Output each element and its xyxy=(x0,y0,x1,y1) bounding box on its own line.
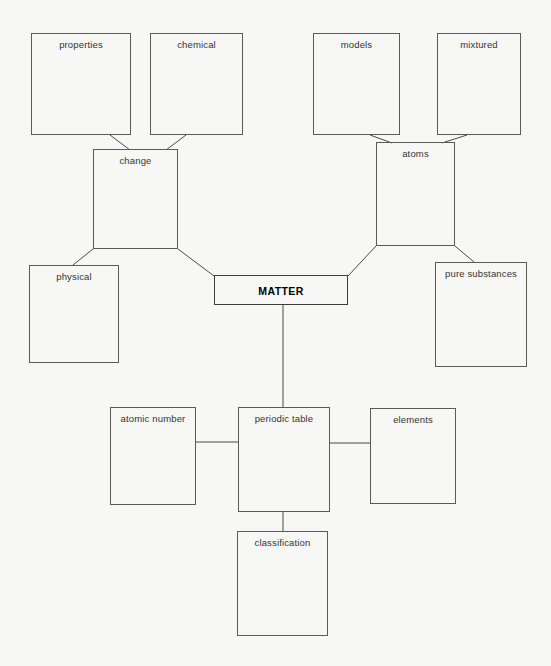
connector-change-to-matter xyxy=(178,249,214,276)
node-label-elements: elements xyxy=(371,414,455,426)
node-atomic-number[interactable]: atomic number xyxy=(110,407,196,505)
node-chemical[interactable]: chemical xyxy=(150,33,243,135)
node-label-classification: classification xyxy=(238,537,327,549)
node-label-atoms: atoms xyxy=(377,148,454,160)
node-matter[interactable]: MATTER xyxy=(214,275,348,305)
node-label-physical: physical xyxy=(30,271,118,283)
node-periodic-table[interactable]: periodic table xyxy=(238,407,330,512)
node-mixtured[interactable]: mixtured xyxy=(437,33,521,135)
node-label-periodic-table: periodic table xyxy=(239,413,329,425)
node-label-models: models xyxy=(314,39,399,51)
node-change[interactable]: change xyxy=(93,149,178,249)
node-classification[interactable]: classification xyxy=(237,531,328,636)
node-label-change: change xyxy=(94,155,177,167)
connector-atoms-to-matter xyxy=(348,246,376,276)
node-label-atomic-number: atomic number xyxy=(111,413,195,425)
node-atoms[interactable]: atoms xyxy=(376,142,455,246)
node-label-properties: properties xyxy=(32,39,130,51)
connector-chemical-to-change xyxy=(166,135,186,150)
connector-change-to-physical xyxy=(73,249,93,265)
node-physical[interactable]: physical xyxy=(29,265,119,363)
node-properties[interactable]: properties xyxy=(31,33,131,135)
node-elements[interactable]: elements xyxy=(370,408,456,504)
node-label-chemical: chemical xyxy=(151,39,242,51)
node-label-mixtured: mixtured xyxy=(438,39,520,51)
node-label-matter: MATTER xyxy=(215,285,347,297)
connector-properties-to-change xyxy=(110,135,130,150)
connector-atoms-to-pure-substances xyxy=(455,246,474,262)
node-pure-substances[interactable]: pure substances xyxy=(435,262,527,367)
node-label-pure-substances: pure substances xyxy=(436,268,526,280)
node-models[interactable]: models xyxy=(313,33,400,135)
concept-map-canvas: propertieschemicalmodelsmixturedchangeat… xyxy=(0,0,551,666)
